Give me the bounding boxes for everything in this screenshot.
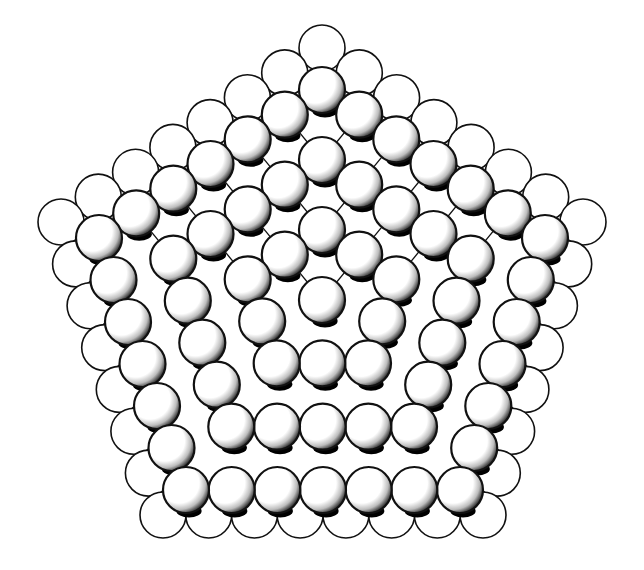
front-shaded-sphere — [494, 299, 540, 345]
front-shaded-sphere — [480, 341, 526, 387]
front-shaded-sphere — [345, 404, 391, 450]
front-shaded-sphere — [209, 467, 255, 513]
front-shaded-sphere — [359, 298, 405, 344]
front-shaded-sphere — [437, 467, 483, 513]
front-shaded-sphere — [391, 404, 437, 450]
front-shaded-sphere — [299, 340, 345, 386]
front-shaded-sphere — [346, 467, 392, 513]
front-shaded-sphere — [179, 320, 225, 366]
front-shaded-sphere — [239, 298, 285, 344]
front-shaded-sphere — [208, 404, 254, 450]
front-shaded-sphere — [150, 236, 196, 282]
front-shaded-sphere — [254, 467, 300, 513]
front-shaded-sphere — [254, 340, 300, 386]
front-shaded-sphere — [134, 383, 180, 429]
front-shaded-sphere — [120, 341, 166, 387]
front-shaded-sphere — [373, 256, 419, 302]
front-shaded-sphere — [434, 278, 480, 324]
front-shaded-sphere — [465, 383, 511, 429]
front-shaded-sphere — [194, 362, 240, 408]
front-shaded-sphere — [254, 404, 300, 450]
front-shaded-sphere — [391, 467, 437, 513]
front-shaded-sphere — [522, 215, 568, 261]
front-shaded-sphere — [508, 257, 554, 303]
front-shaded-sphere — [105, 299, 151, 345]
front-shaded-sphere — [451, 425, 497, 471]
front-shaded-sphere — [165, 278, 211, 324]
front-shaded-sphere — [448, 236, 494, 282]
front-shaded-sphere — [225, 256, 271, 302]
front-shaded-sphere — [76, 215, 122, 261]
front-shaded-sphere — [405, 362, 451, 408]
front-shaded-sphere — [299, 277, 345, 323]
front-shaded-sphere — [91, 257, 137, 303]
sphere-packing-figure — [0, 0, 644, 570]
front-shaded-sphere — [163, 467, 209, 513]
front-shaded-sphere — [345, 340, 391, 386]
front-shaded-sphere — [149, 425, 195, 471]
front-shaded-sphere — [419, 320, 465, 366]
pentagonal-packing-diagram — [0, 0, 644, 570]
inner-front-layer — [76, 67, 568, 517]
front-shaded-sphere — [300, 404, 346, 450]
front-shaded-sphere — [300, 467, 346, 513]
